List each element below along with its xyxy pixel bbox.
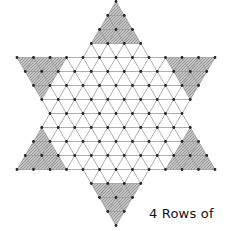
grid-line [100, 114, 108, 128]
grid-line [124, 170, 132, 184]
hole [172, 70, 175, 73]
hole [115, 112, 118, 115]
caption: 4 Rows of [149, 206, 214, 221]
grid-line [91, 58, 99, 72]
grid-line [157, 114, 165, 128]
hole [73, 70, 76, 73]
grid-line [174, 100, 182, 114]
hole [49, 112, 52, 115]
hole [131, 84, 134, 87]
grid-line [149, 156, 157, 170]
grid-line [133, 142, 141, 156]
hole [32, 140, 35, 143]
hole [115, 196, 118, 199]
grid-line [166, 128, 174, 142]
hole [189, 98, 192, 101]
hole [32, 56, 35, 59]
grid-line [174, 114, 182, 128]
star-board [0, 0, 226, 231]
hole [214, 56, 217, 59]
hole [205, 154, 208, 157]
grid-line [100, 58, 108, 72]
hole [106, 14, 109, 17]
hole [115, 140, 118, 143]
grid-line [157, 86, 165, 100]
grid-line [182, 114, 190, 128]
hole [197, 168, 200, 171]
grid-line [100, 170, 108, 184]
grid-line [133, 86, 141, 100]
grid-line [166, 142, 174, 156]
hole [181, 168, 184, 171]
grid-line [42, 114, 50, 128]
grid-line [157, 142, 165, 156]
grid-line [67, 114, 75, 128]
grid-line [133, 128, 141, 142]
hole [172, 154, 175, 157]
hole [214, 168, 217, 171]
hole [148, 140, 151, 143]
grid-line [91, 86, 99, 100]
hole [82, 56, 85, 59]
hole [123, 126, 126, 129]
hole [123, 70, 126, 73]
hole [106, 182, 109, 185]
grid-line [67, 100, 75, 114]
hole [57, 98, 60, 101]
hole [148, 112, 151, 115]
hole [189, 154, 192, 157]
grid-line [133, 156, 141, 170]
grid-line [67, 86, 75, 100]
grid-line [116, 58, 124, 72]
grid-line [124, 100, 132, 114]
grid-line [50, 86, 58, 100]
hole [181, 140, 184, 143]
hole [106, 126, 109, 129]
hole [156, 98, 159, 101]
grid-line [58, 100, 66, 114]
grid-line [149, 58, 157, 72]
hole [123, 98, 126, 101]
grid-line [133, 114, 141, 128]
grid-line [124, 86, 132, 100]
grid-line [166, 100, 174, 114]
hole [98, 56, 101, 59]
hole [115, 56, 118, 59]
grid-line [100, 156, 108, 170]
hole [98, 168, 101, 171]
hole [82, 84, 85, 87]
grid-line [166, 72, 174, 86]
grid-line [157, 72, 165, 86]
hole [115, 224, 118, 227]
grid-line [83, 114, 91, 128]
grid-line [133, 170, 141, 184]
hole [189, 70, 192, 73]
corner-bottom-left [17, 128, 67, 170]
grid-line [166, 86, 174, 100]
grid-line [100, 128, 108, 142]
grid-line [108, 114, 116, 128]
grid-line [141, 100, 149, 114]
hole [148, 168, 151, 171]
grid-line [75, 156, 83, 170]
grid-line [91, 114, 99, 128]
hole [148, 84, 151, 87]
hole [197, 140, 200, 143]
hole [139, 126, 142, 129]
hole [123, 154, 126, 157]
grid-line [108, 86, 116, 100]
hole [98, 196, 101, 199]
hole [82, 112, 85, 115]
hole [49, 56, 52, 59]
hole [98, 84, 101, 87]
hole [131, 168, 134, 171]
grid-line [124, 114, 132, 128]
hole [40, 98, 43, 101]
grid-line [67, 128, 75, 142]
grid-line [166, 114, 174, 128]
grid-line [141, 114, 149, 128]
grid-line [91, 170, 99, 184]
grid-line [83, 142, 91, 156]
grid-line [83, 156, 91, 170]
grid-line [141, 86, 149, 100]
